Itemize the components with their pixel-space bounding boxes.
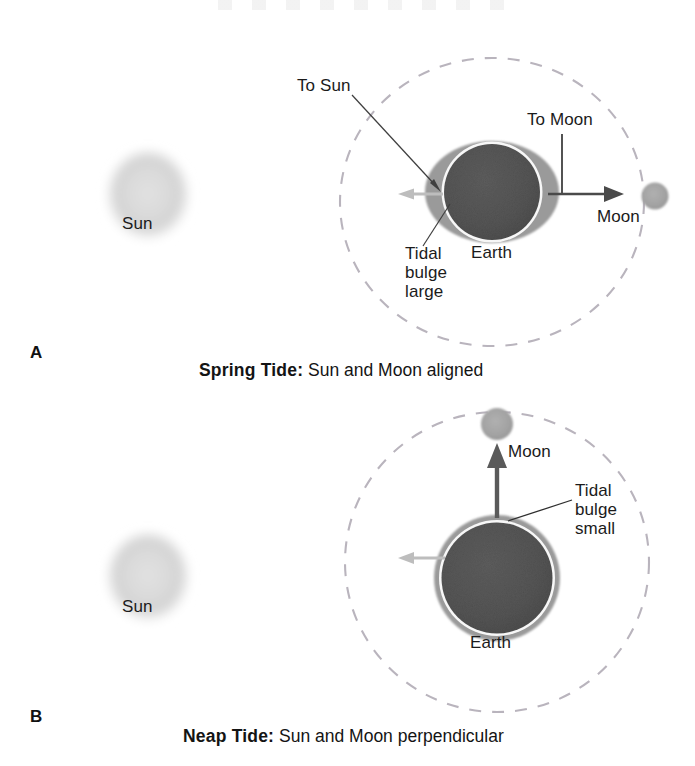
tidal-bulge-label-a-line1: Tidal <box>405 244 447 263</box>
moon-body-b <box>481 408 513 440</box>
to-sun-leader-a <box>352 95 441 192</box>
caption-b: Neap Tide: Sun and Moon perpendicular <box>183 726 504 747</box>
tidal-bulge-label-a-line3: large <box>405 282 447 301</box>
caption-a-label: Spring Tide: <box>199 360 303 380</box>
tidal-bulge-label-b-line2: bulge <box>575 500 617 519</box>
to-sun-label-a: To Sun <box>297 76 351 95</box>
to-moon-arrow-b <box>487 443 507 518</box>
moon-body-a <box>642 183 669 210</box>
tidal-bulge-label-a: Tidal bulge large <box>405 244 447 301</box>
sun-label-b: Sun <box>122 597 153 616</box>
panel-a-graphics <box>108 58 669 346</box>
to-moon-label-a: To Moon <box>527 110 593 129</box>
panel-letter-b: B <box>30 707 43 727</box>
to-moon-arrow-a <box>548 134 624 202</box>
panel-letter-a: A <box>30 343 43 363</box>
caption-a: Spring Tide: Sun and Moon aligned <box>199 360 483 381</box>
earth-label-b: Earth <box>470 633 511 652</box>
earth-body-b <box>442 523 553 634</box>
tidal-bulge-label-b-line3: small <box>575 519 617 538</box>
caption-b-desc: Sun and Moon perpendicular <box>279 726 504 746</box>
caption-b-label: Neap Tide: <box>183 726 274 746</box>
caption-a-desc: Sun and Moon aligned <box>308 360 483 380</box>
sun-label-a: Sun <box>122 214 153 233</box>
earth-label-a: Earth <box>471 243 512 262</box>
moon-label-a: Moon <box>597 207 640 226</box>
tidal-bulge-label-b: Tidal bulge small <box>575 481 617 538</box>
tidal-bulge-label-b-line1: Tidal <box>575 481 617 500</box>
moon-label-b: Moon <box>508 442 551 461</box>
panel-b-graphics <box>108 408 649 712</box>
earth-body-a <box>444 144 540 240</box>
tidal-bulge-leader-b <box>508 500 572 521</box>
tidal-bulge-label-a-line2: bulge <box>405 263 447 282</box>
tides-figure: Sun To Sun To Moon Earth Moon Tidal bulg… <box>0 0 695 766</box>
